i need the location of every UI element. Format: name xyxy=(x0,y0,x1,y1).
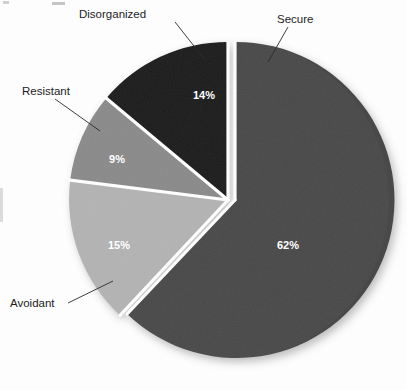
slice-value-disorganized: 14% xyxy=(193,89,215,101)
slice-value-avoidant: 15% xyxy=(108,239,130,251)
pie-chart-svg: 62% 15% 9% 14% Disorganized Secure Resis… xyxy=(0,0,407,390)
category-label-resistant: Resistant xyxy=(22,85,71,97)
slice-value-resistant: 9% xyxy=(109,153,125,165)
leader-line-resistant xyxy=(55,99,100,131)
pie-chart-figure: 62% 15% 9% 14% Disorganized Secure Resis… xyxy=(0,0,407,390)
category-label-secure: Secure xyxy=(277,13,313,25)
slice-value-secure: 62% xyxy=(277,239,299,251)
category-label-avoidant: Avoidant xyxy=(10,297,55,309)
paper-grain-overlay xyxy=(69,40,389,360)
category-label-disorganized: Disorganized xyxy=(79,8,146,20)
